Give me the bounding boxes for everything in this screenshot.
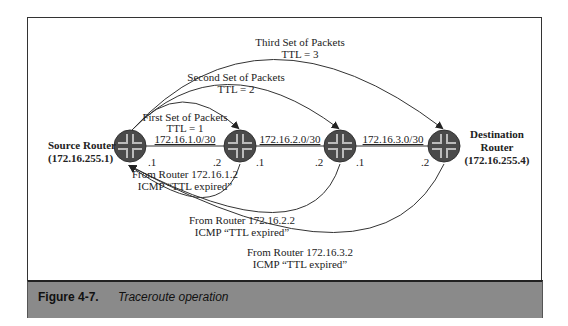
router-icon [324, 130, 356, 162]
subnet-label: 172.16.1.0/30 [155, 133, 216, 145]
destination-router-address: (172.16.255.4) [464, 154, 529, 167]
destination-router-name-2: Router [481, 141, 514, 153]
probe-ttl: TTL = 2 [218, 83, 255, 95]
probe-ttl: TTL = 1 [167, 122, 204, 134]
reply-icmp: ICMP “TTL expired” [195, 226, 290, 238]
figure-title: Traceroute operation [118, 290, 229, 304]
source-router-name: Source Router [48, 139, 116, 151]
probe-ttl: TTL = 3 [282, 48, 319, 60]
router-icon [428, 130, 460, 162]
interface-label: .1 [356, 156, 364, 168]
destination-router-name-1: Destination [470, 128, 524, 140]
subnet-label: 172.16.2.0/30 [260, 133, 321, 145]
reply-label: From Router 172.16.2.2 [189, 214, 295, 226]
probe-label: Third Set of Packets [255, 36, 345, 48]
interface-label: .2 [421, 156, 429, 168]
reply-label: From Router 172.16.3.2 [247, 246, 353, 258]
reply-icmp: ICMP “TTL expired” [138, 180, 233, 192]
figure-caption: Figure 4-7. Traceroute operation [27, 280, 543, 318]
traceroute-diagram: Source Router (172.16.255.1) Destination… [0, 0, 568, 326]
router-icon [224, 130, 256, 162]
interface-label: .2 [213, 156, 221, 168]
source-router-address: (172.16.255.1) [48, 152, 113, 165]
router-icon [114, 130, 146, 162]
subnet-label: 172.16.3.0/30 [363, 133, 424, 145]
interface-label: .2 [315, 156, 323, 168]
figure-number: Figure 4-7. [38, 290, 99, 304]
reply-label: From Router 172.16.1.2 [132, 168, 238, 180]
interface-label: .1 [256, 156, 264, 168]
interface-label: .1 [148, 156, 156, 168]
probe-label: Second Set of Packets [187, 71, 284, 83]
reply-icmp: ICMP “TTL expired” [253, 258, 348, 270]
